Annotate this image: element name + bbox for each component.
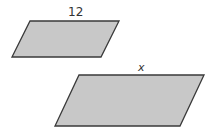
diagram-canvas: 12 x bbox=[0, 0, 212, 135]
small-parallelogram-top-label: 12 bbox=[68, 6, 83, 18]
large-parallelogram bbox=[55, 75, 204, 126]
large-parallelogram-top-label: x bbox=[138, 62, 145, 73]
parallelograms-svg bbox=[0, 0, 212, 135]
small-parallelogram bbox=[12, 21, 119, 57]
